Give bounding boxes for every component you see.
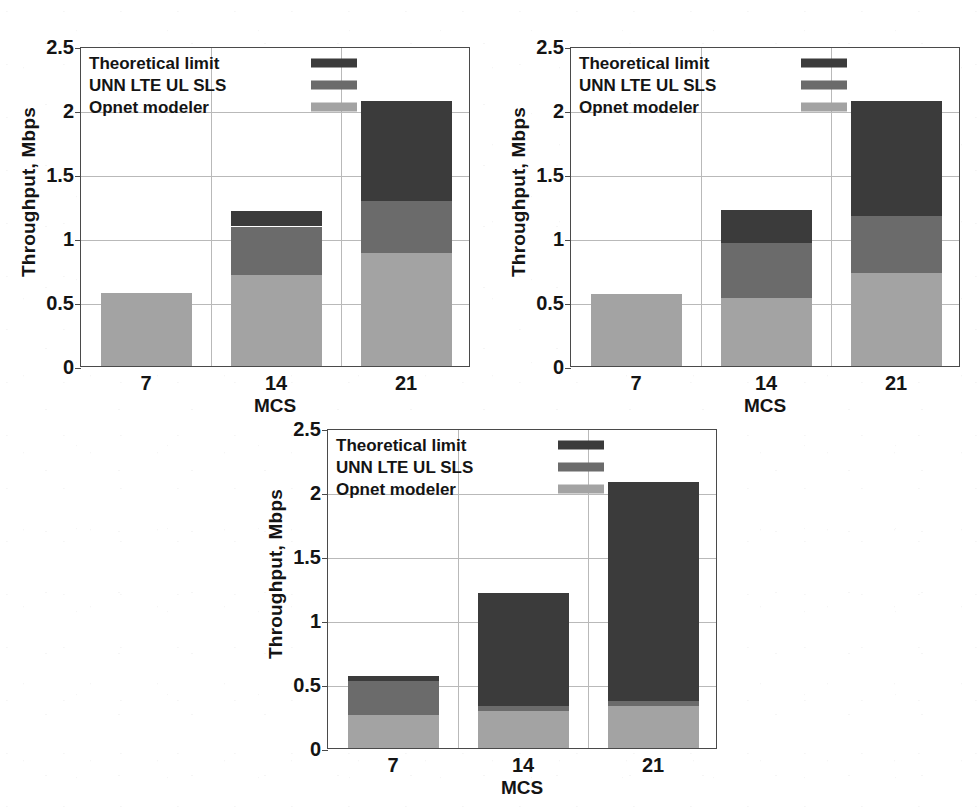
bar-segment-sls: [361, 201, 452, 253]
plot-area: 00.511.522.571421Theoretical limitUNN LT…: [327, 429, 717, 749]
legend-item: Opnet modeler: [579, 96, 879, 118]
y-axis-tick-mark: [75, 368, 81, 369]
y-axis-tick-mark: [565, 112, 571, 113]
bar-segment-theoretical: [231, 211, 322, 226]
chart-panel-top-right: Throughput, Mbps00.511.522.571421Theoret…: [508, 30, 978, 405]
legend-color-swatch-opnet: [311, 103, 357, 112]
bar-segment-sls: [348, 681, 439, 714]
y-axis-tick-mark: [565, 176, 571, 177]
y-axis-tick-mark: [322, 686, 328, 687]
y-axis-tick-mark: [565, 304, 571, 305]
bar-segment-opnet: [608, 706, 699, 748]
legend-color-swatch-sls: [311, 81, 357, 90]
bar-segment-opnet: [478, 711, 569, 748]
bar-segment-theoretical: [348, 676, 439, 681]
legend-color-swatch-opnet: [801, 103, 847, 112]
legend-color-swatch-opnet: [558, 485, 604, 494]
legend-item-label: Theoretical limit: [579, 55, 709, 72]
y-axis-tick-mark: [322, 750, 328, 751]
legend: Theoretical limitUNN LTE UL SLSOpnet mod…: [89, 52, 389, 118]
legend-item-label: Opnet modeler: [336, 481, 456, 498]
y-axis-tick-mark: [565, 48, 571, 49]
y-axis-tick-mark: [75, 48, 81, 49]
x-axis-tick-label: 14: [512, 754, 534, 777]
y-axis-tick-label: 1.5: [293, 546, 321, 569]
legend-color-swatch-sls: [558, 463, 604, 472]
y-axis-tick-label: 0: [553, 356, 564, 379]
bar-segment-sls: [478, 706, 569, 711]
y-axis-tick-label: 0.5: [536, 292, 564, 315]
y-axis-tick-label: 1: [553, 228, 564, 251]
y-axis-tick-mark: [565, 368, 571, 369]
legend-item-label: Opnet modeler: [89, 99, 209, 116]
y-axis-tick-label: 0: [63, 356, 74, 379]
y-axis-tick-label: 0.5: [293, 674, 321, 697]
y-axis-tick-mark: [75, 112, 81, 113]
bar-segment-opnet: [348, 715, 439, 748]
y-axis-tick-mark: [322, 558, 328, 559]
y-axis-tick-label: 2: [553, 100, 564, 123]
y-axis-tick-mark: [75, 240, 81, 241]
y-axis-tick-label: 2.5: [293, 418, 321, 441]
bar-segment-sls: [721, 243, 812, 298]
legend-item: Opnet modeler: [89, 96, 389, 118]
bar-segment-sls: [231, 227, 322, 276]
bar-segment-opnet: [591, 294, 682, 366]
y-axis-tick-mark: [322, 622, 328, 623]
bar-segment-opnet: [721, 298, 812, 366]
y-axis-tick-mark: [322, 430, 328, 431]
legend-item-label: Opnet modeler: [579, 99, 699, 116]
legend-item-label: UNN LTE UL SLS: [89, 77, 226, 94]
y-axis-tick-mark: [75, 176, 81, 177]
x-axis-tick-label: 7: [140, 372, 151, 395]
plot-area: 00.511.522.571421Theoretical limitUNN LT…: [570, 47, 960, 367]
legend-color-swatch-theoretical: [801, 59, 847, 68]
y-axis-title: Throughput, Mbps: [265, 414, 291, 734]
legend: Theoretical limitUNN LTE UL SLSOpnet mod…: [579, 52, 879, 118]
y-axis-tick-label: 0: [310, 738, 321, 761]
y-axis-tick-mark: [322, 494, 328, 495]
legend-item: UNN LTE UL SLS: [579, 74, 879, 96]
legend-item: Theoretical limit: [579, 52, 879, 74]
bar-segment-theoretical: [851, 101, 942, 216]
legend-item: UNN LTE UL SLS: [89, 74, 389, 96]
x-axis-tick-label: 14: [265, 372, 287, 395]
y-axis-tick-label: 1: [310, 610, 321, 633]
plot-area: 00.511.522.571421Theoretical limitUNN LT…: [80, 47, 470, 367]
bar-segment-sls: [851, 216, 942, 272]
legend-item-label: Theoretical limit: [336, 437, 466, 454]
x-axis-tick-label: 21: [885, 372, 907, 395]
bar-segment-opnet: [361, 253, 452, 366]
y-axis-tick-label: 2: [310, 482, 321, 505]
legend-item-label: Theoretical limit: [89, 55, 219, 72]
legend-color-swatch-sls: [801, 81, 847, 90]
legend-item-label: UNN LTE UL SLS: [336, 459, 473, 476]
y-axis-tick-label: 1: [63, 228, 74, 251]
bar-segment-theoretical: [608, 482, 699, 701]
y-axis-tick-label: 2: [63, 100, 74, 123]
y-axis-title: Throughput, Mbps: [18, 32, 44, 352]
legend-item: Opnet modeler: [336, 478, 636, 500]
legend: Theoretical limitUNN LTE UL SLSOpnet mod…: [336, 434, 636, 500]
legend-item: Theoretical limit: [336, 434, 636, 456]
y-axis-tick-label: 1.5: [46, 164, 74, 187]
legend-item-label: UNN LTE UL SLS: [579, 77, 716, 94]
chart-panel-bottom-center: Throughput, Mbps00.511.522.571421Theoret…: [265, 412, 735, 800]
x-axis-tick-label: 7: [387, 754, 398, 777]
legend-color-swatch-theoretical: [558, 441, 604, 450]
y-axis-tick-mark: [565, 240, 571, 241]
x-axis-title: MCS: [327, 777, 717, 799]
bar-segment-opnet: [851, 273, 942, 366]
bar-segment-theoretical: [478, 593, 569, 706]
legend-item: UNN LTE UL SLS: [336, 456, 636, 478]
y-axis-tick-label: 1.5: [536, 164, 564, 187]
x-axis-tick-label: 7: [630, 372, 641, 395]
chart-panel-top-left: Throughput, Mbps00.511.522.571421Theoret…: [18, 30, 488, 405]
bar-segment-opnet: [231, 275, 322, 366]
bar-segment-sls: [608, 701, 699, 706]
y-axis-tick-label: 2.5: [536, 36, 564, 59]
x-axis-tick-label: 21: [642, 754, 664, 777]
y-axis-title: Throughput, Mbps: [508, 32, 534, 352]
legend-item: Theoretical limit: [89, 52, 389, 74]
legend-color-swatch-theoretical: [311, 59, 357, 68]
